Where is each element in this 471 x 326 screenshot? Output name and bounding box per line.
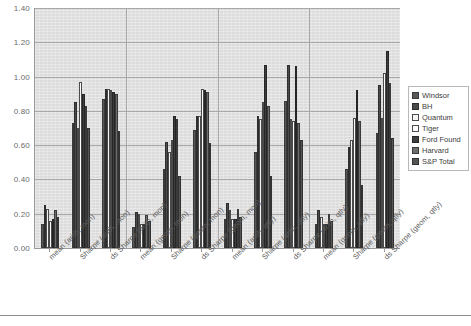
bar-chart: 0.000.200.400.600.801.001.201.40 mean (a… [0,0,471,326]
y-axis-tick-label: 0.60 [14,141,30,150]
bar [87,128,90,248]
bar [300,140,303,248]
y-axis-tick-label: 0.80 [14,106,30,115]
legend-item-label: Harvard [422,147,449,155]
legend-swatch-icon [412,114,419,121]
legend-item: Harvard [411,145,466,156]
legend-item: Ford Found [411,134,466,145]
y-axis: 0.000.200.400.600.801.001.201.40 [0,0,33,258]
legend-item: BH [411,101,466,112]
bar [270,176,273,248]
legend-item-label: S&P Total [422,158,455,166]
legend-item: Windsor [411,90,466,101]
bar [209,143,212,248]
y-axis-tick-label: 1.20 [14,38,30,47]
legend-swatch-icon [412,92,419,99]
footer-divider [0,315,471,316]
legend-swatch-icon [412,125,419,132]
legend-item-label: BH [422,103,432,111]
legend-swatch-icon [412,147,419,154]
legend-item-label: Windsor [422,92,450,100]
legend-swatch-icon [412,136,419,143]
legend-swatch-icon [412,158,419,165]
y-axis-tick-label: 1.40 [14,4,30,13]
legend-swatch-icon [412,103,419,110]
bar [391,138,394,248]
legend-item-label: Quantum [422,114,453,122]
y-axis-tick-label: 0.20 [14,209,30,218]
legend-item: Quantum [411,112,466,123]
legend-item: S&P Total [411,156,466,167]
legend-item-label: Ford Found [422,136,461,144]
bar [118,131,121,248]
legend-item: Tiger [411,123,466,134]
chart-legend: WindsorBHQuantumTigerFord FoundHarvardS&… [408,86,469,171]
y-axis-tick-label: 0.40 [14,175,30,184]
y-axis-tick-label: 1.00 [14,72,30,81]
legend-item-label: Tiger [422,125,439,133]
group-separator [309,8,310,248]
